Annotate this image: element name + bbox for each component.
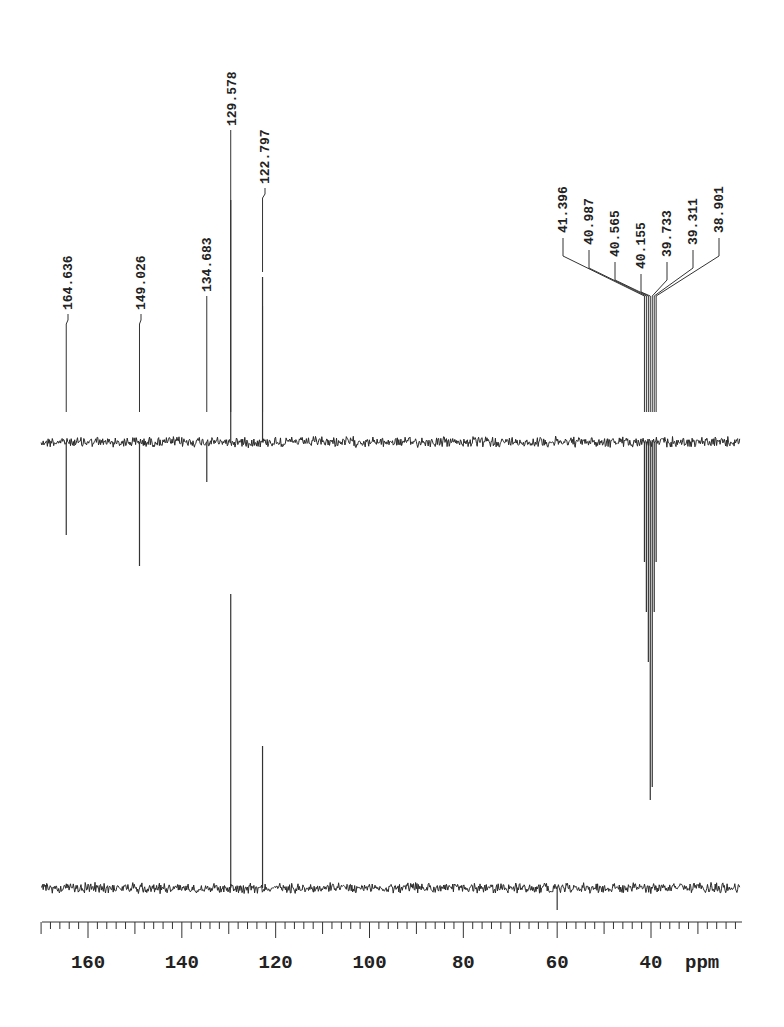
peak-leader [654, 250, 693, 412]
x-tick-label: 140 [165, 952, 199, 974]
x-tick-label: 80 [452, 952, 475, 974]
peak-label: 122.797 [258, 129, 273, 184]
x-tick-label: 120 [259, 952, 293, 974]
peak-labels: 164.636149.026134.683129.578122.79741.39… [61, 71, 727, 412]
peak-label: 39.733 [660, 210, 675, 257]
x-tick-label: 100 [352, 952, 386, 974]
peak-leader [139, 314, 141, 412]
peak-leader [263, 188, 265, 272]
peak-label: 40.987 [582, 198, 597, 245]
peak-label: 40.565 [608, 210, 623, 257]
peak-label: 149.026 [134, 255, 149, 310]
lower-trace [41, 594, 740, 910]
peak-leader [656, 238, 719, 412]
peak-label: 134.683 [200, 237, 215, 292]
x-axis-unit-label: ppm [685, 952, 719, 974]
x-tick-label: 40 [640, 952, 663, 974]
baseline-noise [41, 436, 740, 448]
peak-label: 129.578 [225, 71, 240, 126]
x-tick-label: 60 [546, 952, 569, 974]
peak-label: 38.901 [712, 186, 727, 233]
peak-label: 39.311 [686, 198, 701, 245]
x-tick-label: 160 [71, 952, 105, 974]
x-axis: 160140120100806040 ppm [41, 922, 742, 974]
x-axis-ticks: 160140120100806040 [41, 922, 735, 974]
peak-label: 164.636 [61, 255, 76, 310]
peak-leader [563, 238, 644, 412]
peak-label: 41.396 [556, 186, 571, 233]
peak-leader [66, 314, 68, 412]
peak-leader [589, 250, 646, 412]
nmr-spectrum-chart: 164.636149.026134.683129.578122.79741.39… [0, 0, 784, 1027]
peak-label: 40.155 [634, 222, 649, 269]
baseline-noise [41, 882, 740, 893]
